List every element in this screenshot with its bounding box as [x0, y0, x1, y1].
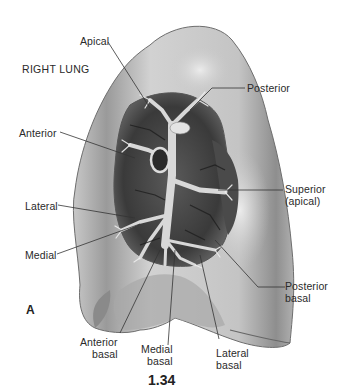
label-superior-line2: (apical)	[285, 195, 326, 207]
label-medial-basal-line1: Medial	[141, 343, 173, 355]
label-posterior-basal-line2: basal	[285, 292, 328, 304]
right-lung-diagram: RIGHT LUNG Apical Posterior Anterior Sup…	[0, 0, 348, 389]
label-superior-apical: Superior (apical)	[285, 183, 326, 207]
diagram-title: RIGHT LUNG	[22, 63, 90, 75]
label-posterior-basal-line1: Posterior	[285, 280, 328, 292]
label-posterior-basal: Posterior basal	[285, 280, 328, 304]
label-anterior-basal: Anterior basal	[80, 336, 118, 360]
label-lateral: Lateral	[25, 200, 58, 212]
label-posterior: Posterior	[247, 82, 290, 94]
label-lateral-basal-line2: basal	[216, 359, 249, 371]
label-apical: Apical	[80, 35, 109, 47]
label-medial: Medial	[25, 249, 57, 261]
label-medial-basal: Medial basal	[141, 343, 173, 367]
label-lateral-basal-line1: Lateral	[216, 347, 249, 359]
figure-number: 1.34	[148, 372, 175, 388]
label-medial-basal-line2: basal	[141, 355, 173, 367]
label-lateral-basal: Lateral basal	[216, 347, 249, 371]
label-anterior: Anterior	[19, 127, 57, 139]
label-superior-line1: Superior	[285, 183, 326, 195]
panel-letter: A	[26, 303, 35, 317]
label-anterior-basal-line1: Anterior	[80, 336, 118, 348]
label-anterior-basal-line2: basal	[80, 348, 118, 360]
